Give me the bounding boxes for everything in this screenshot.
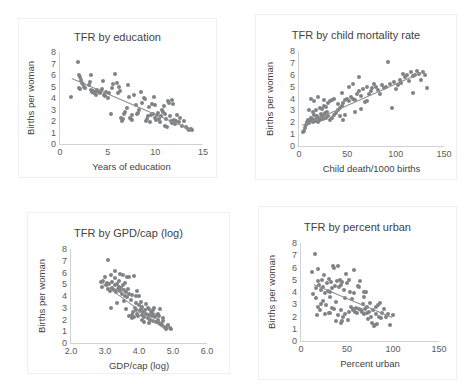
scatter-point xyxy=(336,313,340,317)
scatter-point xyxy=(344,272,348,276)
plot-area: Births per woman Percent urban 012345678… xyxy=(300,243,439,342)
scatter-point xyxy=(113,269,117,273)
scatter-point xyxy=(139,90,143,94)
scatter-point xyxy=(352,291,356,295)
scatter-point xyxy=(110,86,114,90)
scatter-point xyxy=(369,315,373,319)
scatter-point xyxy=(130,113,134,117)
scatter-point xyxy=(117,85,121,89)
chart-panel-tfr-gdp: TFR by GPD/cap (log) Births per woman GD… xyxy=(27,212,230,374)
x-tick-label: 2.0 xyxy=(65,346,78,356)
y-tick-label: 7 xyxy=(290,58,295,68)
scatter-point xyxy=(362,295,366,299)
y-tick-label: 7 xyxy=(62,256,67,266)
scatter-point xyxy=(153,103,157,107)
scatter-point xyxy=(316,95,320,99)
scatter-point xyxy=(113,72,117,76)
scatter-point xyxy=(103,275,107,279)
scatter-point xyxy=(148,120,152,124)
scatter-point xyxy=(351,82,355,86)
y-tick-label: 0 xyxy=(292,336,297,346)
y-tick-label: 3 xyxy=(51,105,56,115)
scatter-point xyxy=(347,278,351,282)
scatter-point xyxy=(314,286,318,290)
scatter-point xyxy=(425,86,429,90)
y-tick-label: 6 xyxy=(51,70,56,80)
scatter-point xyxy=(147,105,151,109)
y-tick-label: 7 xyxy=(51,59,56,69)
x-tick-label: 50 xyxy=(342,149,352,159)
scatter-point xyxy=(182,119,186,123)
y-tick-label: 5 xyxy=(51,82,56,92)
scatter-point xyxy=(124,307,128,311)
scatter-point xyxy=(386,60,390,64)
scatter-points xyxy=(60,52,203,144)
y-tick-label: 0 xyxy=(290,141,295,151)
chart-title: TFR by education xyxy=(19,31,216,43)
y-tick-label: 2 xyxy=(290,117,295,127)
y-tick-label: 6 xyxy=(62,268,67,278)
scatter-point xyxy=(135,289,139,293)
scatter-point xyxy=(345,281,349,285)
y-tick-label: 2 xyxy=(62,315,67,325)
scatter-point xyxy=(171,102,175,106)
scatter-point xyxy=(83,86,87,90)
scatter-point xyxy=(156,312,160,316)
scatter-point xyxy=(319,302,323,306)
x-tick-label: 5 xyxy=(105,147,110,157)
chart-panel-tfr-child-mortality: TFR by child mortality rate Births per w… xyxy=(255,14,457,180)
plot-area: Births per woman GDP/cap (log) 012345678… xyxy=(70,249,207,344)
scatter-point xyxy=(158,120,162,124)
scatter-point xyxy=(365,99,369,103)
y-tick-label: 1 xyxy=(292,324,297,334)
scatter-point xyxy=(341,118,345,122)
scatter-point xyxy=(100,285,104,289)
y-tick-label: 8 xyxy=(51,47,56,57)
scatter-point xyxy=(328,99,332,103)
scatter-point xyxy=(121,117,125,121)
scatter-point xyxy=(129,298,133,302)
scatter-point xyxy=(123,281,127,285)
scatter-point xyxy=(89,73,93,77)
x-tick-label: 100 xyxy=(388,149,403,159)
scatter-point xyxy=(163,124,167,128)
scatter-point xyxy=(130,316,134,320)
scatter-point xyxy=(379,316,383,320)
x-axis-title: Child death/1000 births xyxy=(323,163,421,174)
scatter-point xyxy=(121,273,125,277)
y-tick-label: 4 xyxy=(290,94,295,104)
scatter-point xyxy=(320,278,324,282)
scatter-point xyxy=(390,106,394,110)
scatter-point xyxy=(375,322,379,326)
scatter-point xyxy=(419,78,423,82)
x-axis-title: Years of education xyxy=(92,161,170,172)
y-axis-title: Births per woman xyxy=(25,61,36,135)
x-tick-label: 100 xyxy=(385,344,400,354)
trend-line xyxy=(302,72,423,126)
scatter-point xyxy=(136,111,140,115)
y-tick-label: 7 xyxy=(292,250,297,260)
scatter-point xyxy=(123,110,127,114)
scatter-point xyxy=(162,104,166,108)
scatter-point xyxy=(328,295,332,299)
scatter-point xyxy=(146,306,150,310)
scatter-point xyxy=(158,307,162,311)
chart-panel-tfr-education: TFR by education Births per woman Years … xyxy=(18,18,217,178)
x-axis-title: GDP/cap (log) xyxy=(109,360,169,371)
scatter-point xyxy=(364,290,368,294)
y-tick-label: 4 xyxy=(51,93,56,103)
scatter-point xyxy=(378,92,382,96)
scatter-point xyxy=(359,107,363,111)
scatter-point xyxy=(132,274,136,278)
chart-title: TFR by GPD/cap (log) xyxy=(28,227,229,239)
y-tick-label: 5 xyxy=(292,275,297,285)
x-tick-label: 150 xyxy=(431,344,446,354)
scatter-point xyxy=(352,268,356,272)
scatter-point xyxy=(340,319,344,323)
scatter-point xyxy=(347,310,351,314)
scatter-point xyxy=(324,105,328,109)
y-tick-label: 2 xyxy=(292,312,297,322)
y-tick-label: 4 xyxy=(292,287,297,297)
y-tick-label: 5 xyxy=(62,279,67,289)
scatter-point xyxy=(394,87,398,91)
